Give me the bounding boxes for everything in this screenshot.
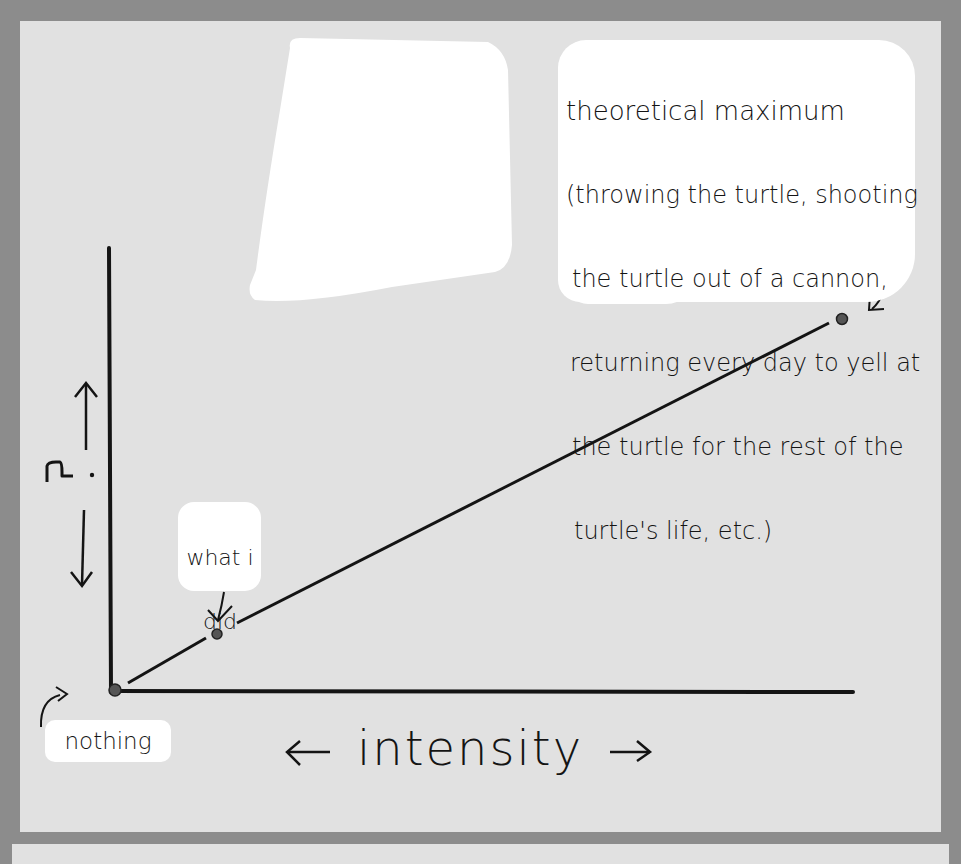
- x-axis-label: intensity: [357, 720, 583, 776]
- theoretical-max-line-6: turtle's life, etc.): [566, 510, 920, 552]
- y-axis-question-mark: [47, 462, 73, 482]
- theoretical-max-label: theoretical maximum (throwing the turtle…: [566, 48, 920, 594]
- what-i-did-line-2: did: [181, 606, 259, 638]
- theoretical-max-line-5: the turtle for the rest of the: [566, 426, 920, 468]
- what-i-did-line-1: what i: [181, 542, 259, 574]
- what-i-did-label: what i did: [181, 510, 259, 670]
- point-nothing: [109, 684, 121, 696]
- theoretical-max-line-3: the turtle out of a cannon,: [566, 258, 920, 300]
- theoretical-max-line-2: (throwing the turtle, shooting: [566, 174, 920, 216]
- theoretical-max-line-1: theoretical maximum: [566, 90, 920, 132]
- theoretical-max-bubble: [250, 38, 512, 301]
- y-axis-label-group: [47, 383, 97, 586]
- nothing-label: nothing: [52, 726, 164, 756]
- y-axis-line: [109, 248, 111, 692]
- y-down-arrow-icon: [82, 510, 84, 585]
- x-axis-line: [112, 691, 853, 692]
- theoretical-max-line-4: returning every day to yell at: [566, 342, 920, 384]
